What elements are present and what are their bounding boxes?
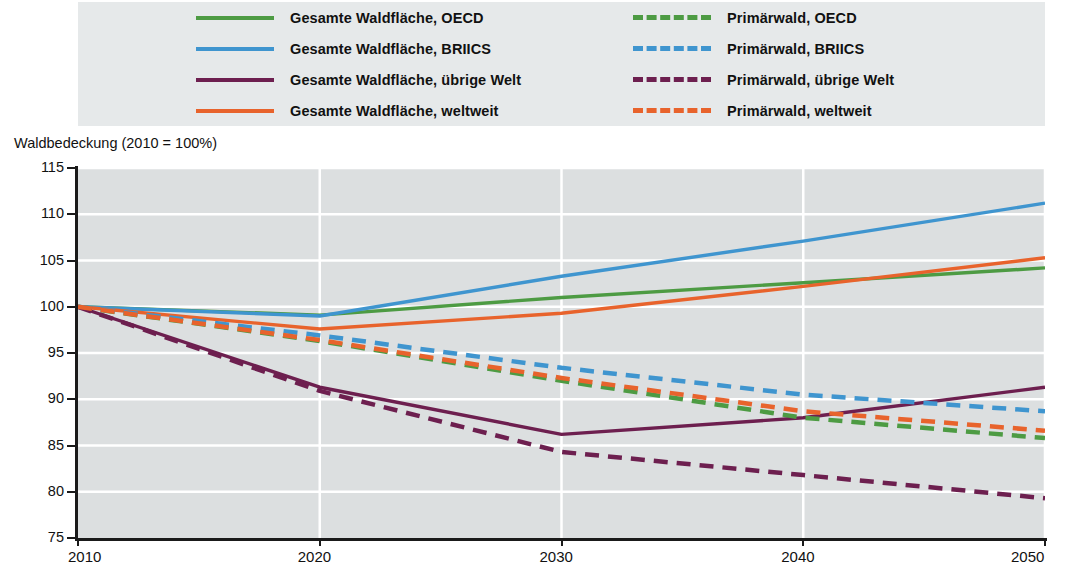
legend-swatch-icon bbox=[196, 16, 274, 20]
x-tick-mark bbox=[802, 538, 804, 546]
y-tick-label: 80 bbox=[8, 483, 64, 499]
legend-item-prim-rwald-brige-welt[interactable]: Primärwald, übrige Welt bbox=[533, 64, 1045, 95]
y-axis-title: Waldbedeckung (2010 = 100%) bbox=[14, 135, 217, 151]
y-tick-label: 75 bbox=[8, 529, 64, 545]
legend-item-label: Gesamte Waldfläche, BRIICS bbox=[290, 41, 491, 57]
y-tick-mark bbox=[67, 537, 75, 539]
legend-item-label: Primärwald, übrige Welt bbox=[727, 72, 894, 88]
y-tick-label: 85 bbox=[8, 437, 64, 453]
legend-item-gesamte-waldfl-che-weltweit[interactable]: Gesamte Waldfläche, weltweit bbox=[78, 95, 533, 126]
x-tick-label: 2040 bbox=[781, 548, 814, 565]
y-tick-label: 100 bbox=[8, 298, 64, 314]
plot-region bbox=[78, 168, 1045, 538]
chart-legend: Gesamte Waldfläche, OECDPrimärwald, OECD… bbox=[78, 2, 1045, 126]
legend-item-gesamte-waldfl-che-brige-welt[interactable]: Gesamte Waldfläche, übrige Welt bbox=[78, 64, 533, 95]
legend-item-label: Primärwald, BRIICS bbox=[727, 41, 864, 57]
legend-item-label: Primärwald, weltweit bbox=[727, 103, 872, 119]
chart-area: 7580859095100105110115 20102020203020402… bbox=[0, 160, 1066, 582]
legend-item-gesamte-waldfl-che-oecd[interactable]: Gesamte Waldfläche, OECD bbox=[78, 2, 533, 33]
y-tick-mark bbox=[67, 213, 75, 215]
legend-swatch-icon bbox=[633, 46, 711, 51]
y-tick-mark bbox=[67, 306, 75, 308]
legend-item-label: Primärwald, OECD bbox=[727, 10, 857, 26]
legend-item-label: Gesamte Waldfläche, OECD bbox=[290, 10, 484, 26]
x-tick-label: 2050 bbox=[1011, 548, 1044, 565]
y-tick-mark bbox=[67, 167, 75, 169]
legend-item-prim-rwald-oecd[interactable]: Primärwald, OECD bbox=[533, 2, 1045, 33]
y-tick-label: 105 bbox=[8, 252, 64, 268]
x-tick-mark bbox=[319, 538, 321, 546]
legend-item-label: Gesamte Waldfläche, weltweit bbox=[290, 103, 499, 119]
legend-swatch-icon bbox=[196, 109, 274, 113]
y-axis-line bbox=[75, 166, 78, 540]
x-tick-label: 2010 bbox=[68, 548, 101, 565]
x-tick-mark bbox=[1044, 538, 1046, 546]
x-tick-label: 2020 bbox=[298, 548, 331, 565]
series-canvas bbox=[78, 168, 1045, 538]
x-tick-label: 2030 bbox=[540, 548, 573, 565]
legend-item-gesamte-waldfl-che-briics[interactable]: Gesamte Waldfläche, BRIICS bbox=[78, 33, 533, 64]
y-tick-mark bbox=[67, 398, 75, 400]
legend-swatch-icon bbox=[196, 47, 274, 51]
y-tick-mark bbox=[67, 491, 75, 493]
legend-item-label: Gesamte Waldfläche, übrige Welt bbox=[290, 72, 521, 88]
legend-swatch-icon bbox=[633, 77, 711, 82]
y-tick-label: 115 bbox=[8, 159, 64, 175]
legend-swatch-icon bbox=[196, 78, 274, 82]
legend-swatch-icon bbox=[633, 15, 711, 20]
y-tick-mark bbox=[67, 352, 75, 354]
y-tick-label: 110 bbox=[8, 205, 64, 221]
x-tick-mark bbox=[77, 538, 79, 546]
y-tick-label: 90 bbox=[8, 390, 64, 406]
legend-swatch-icon bbox=[633, 108, 711, 113]
y-tick-mark bbox=[67, 260, 75, 262]
legend-item-prim-rwald-briics[interactable]: Primärwald, BRIICS bbox=[533, 33, 1045, 64]
legend-item-prim-rwald-weltweit[interactable]: Primärwald, weltweit bbox=[533, 95, 1045, 126]
y-tick-mark bbox=[67, 445, 75, 447]
x-tick-mark bbox=[561, 538, 563, 546]
y-tick-label: 95 bbox=[8, 344, 64, 360]
